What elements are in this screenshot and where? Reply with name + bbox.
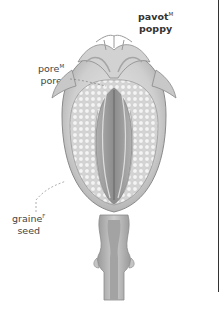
stem: [94, 215, 134, 300]
poppy-capsule-illustration: [0, 0, 224, 313]
seed-leader-line: [36, 181, 66, 212]
